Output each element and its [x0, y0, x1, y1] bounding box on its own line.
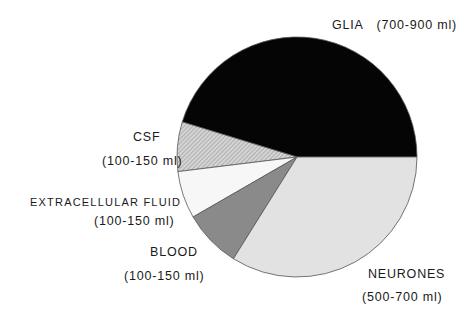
- glia-range: (700-900 ml): [377, 18, 457, 32]
- pie-slices: [177, 37, 417, 277]
- label-glia: GLIA (700-900 ml): [332, 18, 457, 32]
- label-csf-range: (100-150 ml): [102, 154, 182, 168]
- label-blood: BLOOD: [150, 245, 198, 259]
- label-neurones: NEURONES: [368, 267, 445, 281]
- label-csf: CSF: [133, 130, 160, 144]
- label-neurones-range: (500-700 ml): [362, 290, 442, 304]
- glia-name: GLIA: [332, 18, 364, 32]
- label-extracellular-fluid-range: (100-150 ml): [94, 214, 174, 228]
- label-extracellular-fluid: EXTRACELLULAR FLUID: [30, 195, 181, 209]
- label-blood-range: (100-150 ml): [124, 269, 204, 283]
